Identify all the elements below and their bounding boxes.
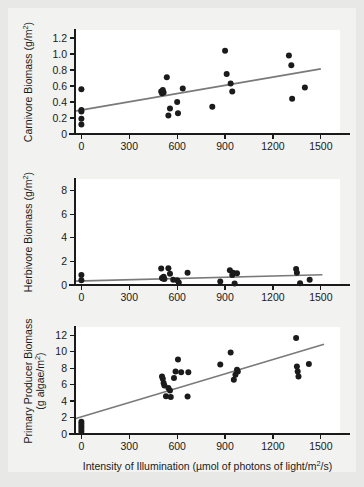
y-tick-label: 0.6	[52, 80, 67, 92]
y-tick-label: 0	[61, 128, 67, 140]
carnivore-biomass-chart: 00.20.40.60.81.01.2030060090012001500Car…	[8, 8, 356, 163]
data-point	[78, 109, 84, 115]
data-point	[307, 277, 313, 283]
y-tick-label: 2	[61, 255, 67, 267]
data-point	[306, 361, 312, 367]
data-point	[78, 272, 84, 278]
data-point	[224, 71, 230, 77]
x-tick-label: 1200	[261, 140, 285, 152]
primary-producer-biomass-chart: 024681012030060090012001500Primary Produ…	[8, 313, 356, 472]
x-tick-label: 1500	[309, 140, 333, 152]
data-point	[78, 86, 84, 92]
x-tick-label: 600	[168, 291, 186, 303]
data-point	[293, 335, 299, 341]
data-point	[78, 116, 84, 122]
plot-background	[75, 179, 340, 285]
data-point	[234, 270, 240, 276]
data-point	[209, 104, 215, 110]
x-tick-label: 1500	[309, 291, 333, 303]
data-point	[228, 81, 234, 87]
x-axis-title-superscript: 2	[316, 459, 320, 468]
data-point	[161, 276, 167, 282]
data-point	[165, 113, 171, 119]
x-tick-label: 900	[216, 440, 234, 452]
y-tick-label: 6	[61, 378, 67, 390]
y-tick-label: 0.4	[52, 96, 67, 108]
data-point	[185, 270, 191, 276]
panel-primary-producer-biomass: 024681012030060090012001500Primary Produ…	[8, 313, 356, 472]
data-point	[185, 394, 191, 400]
y-tick-label: 8	[61, 184, 67, 196]
y-tick-label: 12	[55, 329, 67, 341]
x-tick-label: 300	[121, 291, 139, 303]
y-axis-title-line1: Primary Producer Biomass	[22, 319, 34, 444]
data-point	[229, 89, 235, 95]
y-tick-label: 0.8	[52, 64, 67, 76]
data-point	[286, 53, 292, 59]
data-point	[165, 265, 171, 271]
y-tick-label: 1.0	[52, 48, 67, 60]
data-point	[175, 357, 181, 363]
data-point	[222, 48, 228, 54]
y-tick-label: 0	[61, 279, 67, 291]
x-axis-title: Intensity of Illumination (µmol of photo…	[83, 459, 332, 473]
y-axis-title-line2: (g algae/m2)	[33, 352, 47, 409]
y-axis-title: Carnivore Biomass (g/m2)	[21, 22, 35, 142]
x-tick-label: 600	[168, 440, 186, 452]
y-axis-title: Herbivore Biomass (g/m2)	[21, 172, 35, 292]
data-point	[180, 85, 186, 91]
x-tick-label: 300	[121, 440, 139, 452]
panel-herbivore-biomass: 02468030060090012001500Herbivore Biomass…	[8, 163, 356, 313]
data-point	[168, 394, 174, 400]
figure-card: 00.20.40.60.81.01.2030060090012001500Car…	[8, 8, 356, 472]
y-tick-label: 4	[61, 231, 67, 243]
x-tick-label: 900	[216, 291, 234, 303]
data-point	[158, 266, 164, 272]
data-point	[167, 387, 173, 393]
figure-root: 00.20.40.60.81.01.2030060090012001500Car…	[0, 0, 364, 487]
data-point	[294, 270, 300, 276]
data-point	[167, 105, 173, 111]
y-tick-label: 10	[55, 345, 67, 357]
y-tick-label: 0.2	[52, 112, 67, 124]
data-point	[178, 369, 184, 375]
y-tick-label: 6	[61, 208, 67, 220]
x-tick-label: 900	[216, 140, 234, 152]
panel-carnivore-biomass: 00.20.40.60.81.01.2030060090012001500Car…	[8, 8, 356, 163]
x-tick-label: 300	[121, 140, 139, 152]
data-point	[217, 361, 223, 367]
y-axis-title-superscript: 2	[21, 25, 30, 29]
data-point	[164, 74, 170, 80]
data-point	[289, 96, 295, 102]
y-tick-label: 8	[61, 362, 67, 374]
y-axis-title-line2-superscript: 2	[33, 356, 42, 360]
plot-background	[75, 30, 340, 134]
data-point	[161, 89, 167, 95]
x-tick-label: 600	[168, 140, 186, 152]
herbivore-biomass-chart: 02468030060090012001500Herbivore Biomass…	[8, 163, 356, 313]
data-point	[175, 110, 181, 116]
plot-background	[75, 327, 340, 434]
data-point	[78, 121, 84, 127]
x-tick-label: 1200	[261, 291, 285, 303]
y-tick-label: 1.2	[52, 32, 67, 44]
data-point	[302, 85, 308, 91]
data-point	[185, 369, 191, 375]
data-point	[217, 278, 223, 284]
data-point	[171, 375, 177, 381]
x-tick-label: 1200	[261, 440, 285, 452]
x-tick-label: 0	[78, 440, 84, 452]
y-tick-label: 2	[61, 411, 67, 423]
data-point	[167, 271, 173, 277]
y-axis-title-superscript: 2	[21, 175, 30, 179]
data-point	[228, 350, 234, 356]
y-tick-label: 4	[61, 395, 67, 407]
x-tick-label: 0	[78, 291, 84, 303]
data-point	[295, 373, 301, 379]
data-point	[78, 277, 84, 283]
data-point	[173, 368, 179, 374]
y-tick-label: 0	[61, 428, 67, 440]
data-point	[235, 368, 241, 374]
x-tick-label: 1500	[309, 440, 333, 452]
data-point	[174, 99, 180, 105]
